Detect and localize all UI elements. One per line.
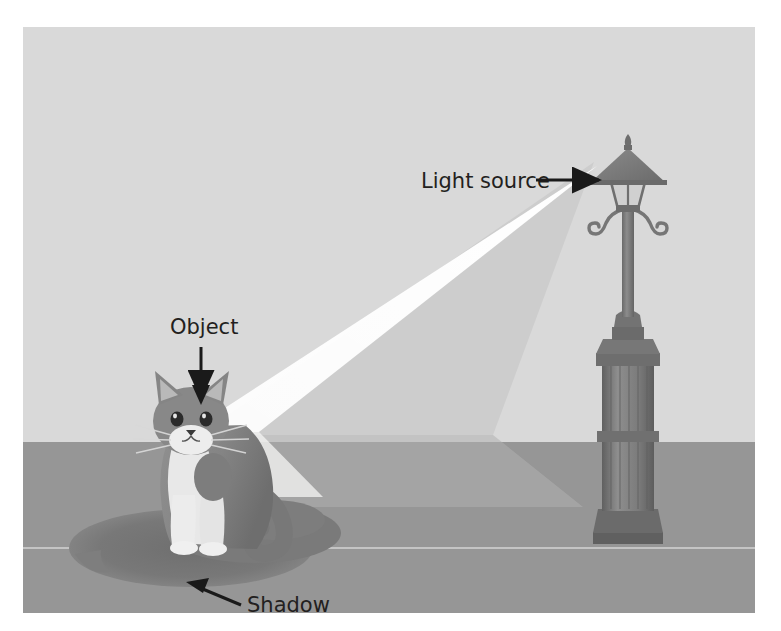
lamp-lantern — [611, 182, 645, 212]
object-label: Object — [170, 315, 238, 339]
light-source-label: Light source — [421, 169, 550, 193]
lamp-pole — [622, 205, 634, 317]
diagram-figure: Light source Object Shadow — [23, 27, 755, 613]
shadow-label: Shadow — [247, 593, 330, 613]
lamp-base — [593, 310, 663, 544]
